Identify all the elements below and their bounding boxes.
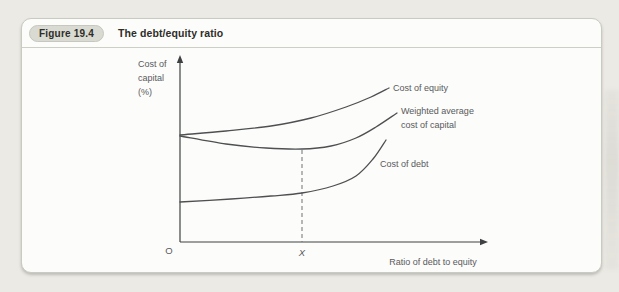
scan-artifact [605, 90, 619, 270]
y-axis-label: Cost of [138, 59, 167, 69]
x-axis-label: Ratio of debt to equity [389, 257, 477, 267]
series-label-cost-of-debt: Cost of debt [380, 159, 429, 169]
series-label-weighted-average-cost-of-capital: Weighted average [401, 106, 474, 116]
curve-weighted-average-cost-of-capital [180, 113, 397, 149]
origin-label: O [165, 245, 172, 256]
y-axis-arrowhead [177, 55, 183, 63]
y-axis-label: (%) [138, 87, 152, 97]
y-axis-label: capital [138, 73, 164, 83]
curve-cost-of-equity [180, 88, 389, 135]
x-axis-arrowhead [480, 239, 488, 245]
x-marker-label: X [298, 247, 306, 258]
series-label-cost-of-equity: Cost of equity [393, 83, 449, 93]
debt-equity-ratio-chart: Cost of equityWeighted averagecost of ca… [22, 19, 603, 274]
page-background: Figure 19.4 The debt/equity ratio Cost o… [0, 0, 619, 292]
chart-area: Cost of equityWeighted averagecost of ca… [22, 19, 601, 272]
figure-box: Figure 19.4 The debt/equity ratio Cost o… [21, 18, 602, 273]
series-label-weighted-average-cost-of-capital: cost of capital [401, 120, 456, 130]
